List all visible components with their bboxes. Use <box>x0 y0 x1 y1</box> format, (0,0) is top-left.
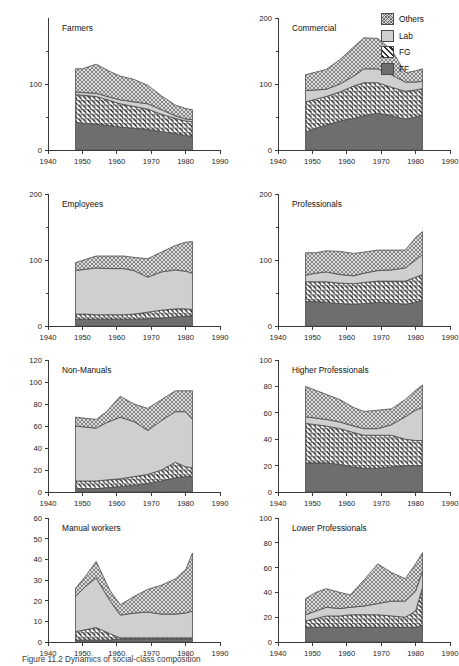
panel-title: Professionals <box>292 199 342 209</box>
svg-text:1950: 1950 <box>304 333 321 342</box>
svg-text:0: 0 <box>38 146 42 155</box>
svg-text:60: 60 <box>264 564 272 573</box>
svg-text:1950: 1950 <box>304 157 321 166</box>
svg-text:60: 60 <box>34 514 42 523</box>
svg-text:200: 200 <box>259 190 272 199</box>
legend-item-fg: FG <box>381 45 457 59</box>
svg-text:100: 100 <box>29 378 42 387</box>
svg-text:60: 60 <box>34 422 42 431</box>
legend-item-others: Others <box>381 12 457 26</box>
svg-text:1940: 1940 <box>40 157 57 166</box>
svg-text:100: 100 <box>259 356 272 365</box>
panel-employees: 1940195019601970198019900100200Employees <box>8 184 230 352</box>
svg-text:0: 0 <box>38 638 42 647</box>
svg-text:20: 20 <box>34 466 42 475</box>
figure-caption: Figure 11.2 Dynamics of social-class com… <box>22 655 452 664</box>
svg-text:0: 0 <box>268 322 272 331</box>
svg-text:20: 20 <box>264 462 272 471</box>
legend-label-lab: Lab <box>399 31 413 41</box>
svg-text:1990: 1990 <box>212 333 229 342</box>
svg-text:1950: 1950 <box>74 499 91 508</box>
panel-higher-professionals: 194019501960197019801990020406080100High… <box>238 350 459 518</box>
svg-text:1990: 1990 <box>442 333 459 342</box>
panel-title: Non-Manuals <box>62 365 111 375</box>
panel-title: Higher Professionals <box>292 365 369 375</box>
svg-text:80: 80 <box>264 539 272 548</box>
svg-text:1960: 1960 <box>108 499 125 508</box>
svg-text:1960: 1960 <box>108 333 125 342</box>
legend-swatch-ff <box>381 63 394 75</box>
svg-text:1950: 1950 <box>74 333 91 342</box>
svg-text:1960: 1960 <box>338 157 355 166</box>
panel-manual-workers: 1940195019601970198019900102030405060Man… <box>8 508 230 666</box>
svg-text:1940: 1940 <box>270 333 287 342</box>
legend-label-others: Others <box>399 14 424 24</box>
svg-text:1980: 1980 <box>407 333 424 342</box>
panel-title: Employees <box>62 199 103 209</box>
svg-text:40: 40 <box>264 588 272 597</box>
svg-text:1950: 1950 <box>74 157 91 166</box>
legend-swatch-others <box>381 13 394 25</box>
svg-text:1980: 1980 <box>177 333 194 342</box>
svg-text:1940: 1940 <box>40 499 57 508</box>
svg-text:20: 20 <box>34 597 42 606</box>
svg-text:1980: 1980 <box>407 157 424 166</box>
legend-item-ff: FF <box>381 62 457 76</box>
svg-text:1950: 1950 <box>304 499 321 508</box>
svg-text:0: 0 <box>38 488 42 497</box>
svg-text:200: 200 <box>29 190 42 199</box>
svg-text:0: 0 <box>268 638 272 647</box>
panel-title: Manual workers <box>62 523 121 533</box>
svg-text:200: 200 <box>259 14 272 23</box>
svg-text:0: 0 <box>268 488 272 497</box>
svg-text:1940: 1940 <box>270 499 287 508</box>
svg-text:120: 120 <box>29 356 42 365</box>
svg-text:50: 50 <box>34 535 42 544</box>
svg-text:1970: 1970 <box>143 157 160 166</box>
svg-text:1940: 1940 <box>270 157 287 166</box>
svg-text:1990: 1990 <box>212 499 229 508</box>
svg-text:40: 40 <box>34 555 42 564</box>
legend-swatch-lab <box>381 30 394 42</box>
panel-farmers: 1940195019601970198019900100Farmers <box>8 8 230 176</box>
legend-label-fg: FG <box>399 47 411 57</box>
svg-text:1990: 1990 <box>442 499 459 508</box>
svg-text:1980: 1980 <box>177 157 194 166</box>
panel-title: Farmers <box>62 23 93 33</box>
svg-text:1980: 1980 <box>177 499 194 508</box>
svg-text:100: 100 <box>29 80 42 89</box>
svg-text:60: 60 <box>264 409 272 418</box>
legend-swatch-fg <box>381 46 394 58</box>
svg-text:1970: 1970 <box>143 499 160 508</box>
svg-text:1960: 1960 <box>108 157 125 166</box>
svg-text:1990: 1990 <box>212 157 229 166</box>
svg-text:0: 0 <box>268 146 272 155</box>
svg-text:100: 100 <box>259 80 272 89</box>
svg-text:1970: 1970 <box>143 333 160 342</box>
svg-text:1990: 1990 <box>442 157 459 166</box>
svg-text:80: 80 <box>264 382 272 391</box>
panel-professionals: 1940195019601970198019900100200Professio… <box>238 184 459 352</box>
svg-text:100: 100 <box>29 256 42 265</box>
legend-label-ff: FF <box>399 64 409 74</box>
panel-lower-professionals: 194019501960197019801990020406080100Lowe… <box>238 508 459 666</box>
legend-item-lab: Lab <box>381 29 457 43</box>
svg-text:80: 80 <box>34 400 42 409</box>
svg-text:0: 0 <box>38 322 42 331</box>
panel-title: Lower Professionals <box>292 523 367 533</box>
svg-text:1980: 1980 <box>407 499 424 508</box>
svg-text:20: 20 <box>264 613 272 622</box>
svg-text:30: 30 <box>34 576 42 585</box>
svg-text:10: 10 <box>34 617 42 626</box>
svg-text:1970: 1970 <box>373 157 390 166</box>
panel-title: Commercial <box>292 23 336 33</box>
figure-stacked-area-panels: 1940195019601970198019900100Farmers 1940… <box>0 0 459 666</box>
svg-text:100: 100 <box>259 514 272 523</box>
svg-text:40: 40 <box>34 444 42 453</box>
legend: Others Lab FG FF <box>381 12 457 78</box>
svg-text:1970: 1970 <box>373 499 390 508</box>
svg-text:100: 100 <box>259 256 272 265</box>
svg-text:1960: 1960 <box>338 499 355 508</box>
svg-text:1940: 1940 <box>40 333 57 342</box>
svg-text:40: 40 <box>264 435 272 444</box>
